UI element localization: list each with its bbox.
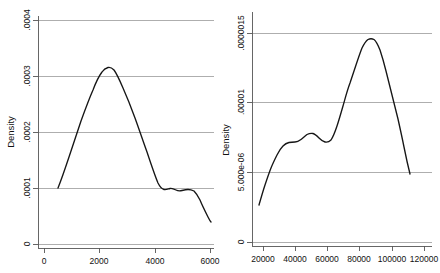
right-gridlines	[252, 33, 432, 242]
x-tick-label-0: 0	[42, 256, 47, 266]
left-plot-svg: .0004 .0003 .0002 .0001 0 Density 0 2000…	[0, 0, 220, 273]
y-tick-label-0.0001: .0001	[22, 177, 32, 199]
y-tick-label-0.0003: .0003	[22, 65, 32, 87]
right-y-axis	[247, 12, 252, 246]
x-tick-label-60000: 60000	[315, 254, 339, 264]
x-tick-label-4000: 4000	[146, 256, 165, 266]
left-density-panel: .0004 .0003 .0002 .0001 0 Density 0 2000…	[0, 0, 220, 273]
left-x-tick-labels: 0 2000 4000 6000	[42, 256, 220, 266]
x-tick-label-80000: 80000	[347, 254, 371, 264]
right-plot-svg: .0000015 .00001 5.000e-06 0 Density 2000…	[220, 0, 440, 273]
y-tick-label-0.0000015: .0000015	[236, 15, 246, 51]
right-x-tick-labels: 20000 40000 60000 80000 100000 120000	[251, 254, 438, 264]
left-y-tick-labels: .0004 .0003 .0002 .0001 0	[22, 9, 32, 246]
left-y-axis-title: Density	[5, 116, 16, 148]
density-plot-figure: .0004 .0003 .0002 .0001 0 Density 0 2000…	[0, 0, 440, 273]
right-density-curve	[259, 39, 410, 205]
y-tick-label-0.0004: .0004	[22, 9, 32, 31]
right-y-tick-labels: .0000015 .00001 5.000e-06 0	[236, 15, 246, 244]
x-tick-label-20000: 20000	[251, 254, 275, 264]
x-tick-label-6000: 6000	[201, 256, 220, 266]
x-tick-label-40000: 40000	[283, 254, 307, 264]
y-tick-label-0.00001: .00001	[236, 89, 246, 115]
left-gridlines	[38, 20, 214, 244]
x-tick-label-2000: 2000	[90, 256, 109, 266]
y-tick-label-0: 0	[236, 239, 246, 244]
x-tick-label-120000: 120000	[410, 254, 439, 264]
right-y-axis-title: Density	[220, 124, 231, 156]
right-x-axis	[252, 246, 432, 251]
y-tick-label-0: 0	[22, 241, 32, 246]
left-density-curve	[58, 67, 211, 222]
x-tick-label-100000: 100000	[378, 254, 407, 264]
y-tick-label-5e-06: 5.000e-06	[236, 153, 246, 192]
y-tick-label-0.0002: .0002	[22, 121, 32, 143]
left-x-axis	[38, 248, 214, 253]
right-density-panel: .0000015 .00001 5.000e-06 0 Density 2000…	[220, 0, 440, 273]
left-y-axis	[33, 16, 38, 248]
